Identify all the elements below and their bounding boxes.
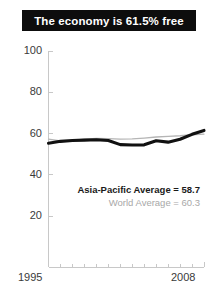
chart-legend: Asia-Pacific Average = 58.7 World Averag…	[60, 183, 200, 209]
economic-freedom-chart: The economy is 61.5% free 100 80 60 40 2…	[0, 0, 217, 303]
ytick-label-40: 40	[16, 169, 42, 180]
ytick-label-100: 100	[16, 45, 42, 56]
ytick-label-20: 20	[16, 210, 42, 221]
xtick-label-start: 1995	[18, 272, 42, 283]
legend-item-world: World Average = 60.3	[60, 196, 200, 209]
ytick-label-60: 60	[16, 128, 42, 139]
legend-item-asia-pacific: Asia-Pacific Average = 58.7	[60, 183, 200, 196]
ytick-label-80: 80	[16, 86, 42, 97]
xtick-label-end: 2008	[171, 272, 195, 283]
